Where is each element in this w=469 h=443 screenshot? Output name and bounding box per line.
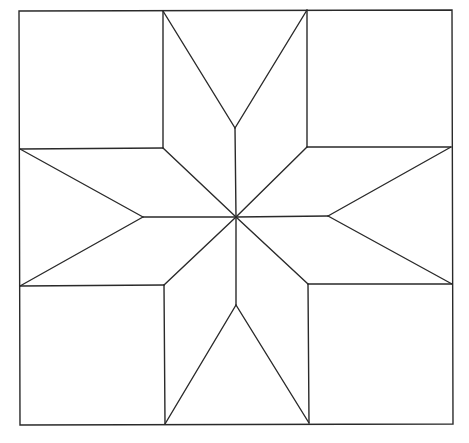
bottom-triangle-left	[165, 305, 236, 424]
right-triangle-bottom	[328, 216, 452, 284]
br-square-left-edge	[308, 284, 309, 423]
left-triangle-bottom	[20, 217, 143, 286]
tl-square-bottom-edge	[20, 148, 163, 149]
left-triangle-top	[20, 149, 143, 217]
bl-square-right-edge	[164, 285, 165, 424]
spoke-top	[235, 128, 236, 217]
quilt-block-diagram	[0, 0, 469, 443]
spoke-right	[236, 216, 328, 217]
bottom-triangle-right	[236, 305, 309, 423]
top-triangle-right	[235, 10, 307, 128]
top-triangle-left	[163, 11, 235, 128]
star-quilt-svg	[0, 0, 469, 443]
right-triangle-top	[328, 147, 451, 216]
bl-square-top-edge	[20, 285, 164, 286]
spoke-bottom-left	[164, 217, 236, 285]
spoke-bottom-right	[236, 217, 308, 284]
spoke-top-left	[163, 148, 236, 217]
spoke-top-right	[236, 147, 307, 217]
